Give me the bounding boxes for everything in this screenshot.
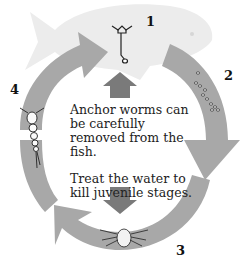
stage-number-2: 2 (224, 68, 233, 83)
stage-number-3: 3 (176, 243, 185, 258)
removal-note: Anchor worms can be carefully removed fr… (70, 103, 200, 159)
center-text: Anchor worms can be carefully removed fr… (70, 103, 200, 213)
treatment-note: Treat the water to kill juvenile stages. (70, 172, 200, 200)
arrow-3-to-4 (20, 140, 58, 212)
stage-number-1: 1 (146, 14, 155, 29)
stage-number-4: 4 (10, 82, 19, 97)
